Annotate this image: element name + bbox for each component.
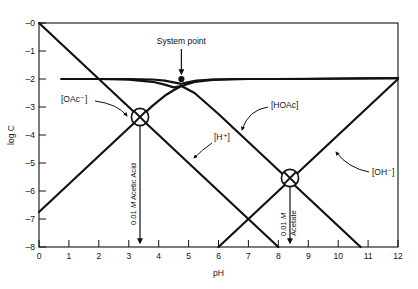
y-axis-ticks xyxy=(39,23,46,247)
h-plus-series-label: [H⁺] xyxy=(214,132,230,142)
x-tick-label: 9 xyxy=(306,251,311,261)
x-tick-label: 1 xyxy=(67,251,72,261)
y-tick-label: –7 xyxy=(26,214,36,224)
acetate-drop-label-line2: Acetate xyxy=(289,210,298,236)
hoac-annotation-arrow xyxy=(242,107,268,130)
series-hoac-line xyxy=(61,79,360,247)
y-axis-tick-labels: –0 –1 –2 –3 –4 –5 –6 –7 –8 xyxy=(26,18,36,252)
y-tick-label: –5 xyxy=(26,158,36,168)
oh-minus-series-label: [OH⁻] xyxy=(372,167,394,177)
acetate-drop-label-line1: 0.01 M xyxy=(279,212,288,236)
y-axis-title: log C xyxy=(6,125,16,145)
series-oh-minus-line xyxy=(219,79,399,247)
x-tick-label: 2 xyxy=(96,251,101,261)
x-tick-label: 3 xyxy=(126,251,131,261)
x-tick-label: 12 xyxy=(393,251,403,261)
x-tick-label: 11 xyxy=(364,251,373,261)
x-axis-title: pH xyxy=(213,268,224,278)
x-tick-label: 8 xyxy=(276,251,281,261)
y-tick-label: –8 xyxy=(26,242,36,252)
hoac-series-label: [HOAc] xyxy=(271,100,298,110)
y-tick-label: –3 xyxy=(26,102,36,112)
x-axis-tick-labels: 0 1 2 3 4 5 6 7 8 9 10 11 12 xyxy=(37,251,403,261)
chart-canvas: –0 –1 –2 –3 –4 –5 –6 –7 –8 xyxy=(0,0,418,289)
oac-minus-series-label: [OAc⁻] xyxy=(61,94,87,104)
h-plus-annotation-arrow xyxy=(194,143,212,158)
y-tick-label: –4 xyxy=(26,130,36,140)
series-total-concentration-line xyxy=(61,78,398,84)
oac-minus-annotation-arrow xyxy=(95,101,127,116)
system-point-label: System point xyxy=(157,36,207,46)
y-tick-label: –6 xyxy=(26,186,36,196)
x-tick-label: 0 xyxy=(37,251,42,261)
acetic-acid-drop-label: 0.01 M Acetic Acid xyxy=(129,163,138,225)
x-tick-label: 10 xyxy=(333,251,343,261)
log-concentration-diagram-figure: –0 –1 –2 –3 –4 –5 –6 –7 –8 xyxy=(0,0,418,289)
x-tick-label: 4 xyxy=(156,251,161,261)
system-point-marker xyxy=(178,76,184,82)
y-tick-label: –2 xyxy=(26,74,36,84)
x-tick-label: 7 xyxy=(246,251,251,261)
x-tick-label: 5 xyxy=(186,251,191,261)
y-tick-label: –1 xyxy=(26,46,36,56)
oh-minus-annotation-arrow xyxy=(336,152,369,172)
x-tick-label: 6 xyxy=(216,251,221,261)
y-tick-label: –0 xyxy=(26,18,36,28)
